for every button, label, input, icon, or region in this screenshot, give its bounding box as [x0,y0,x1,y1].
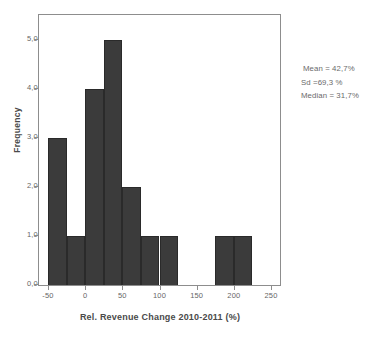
stat-mean: Mean = 42,7% [301,62,383,76]
plot-area [39,15,280,285]
x-axis-tick-mark [160,286,161,290]
stat-median: Median = 31,7% [301,89,383,103]
x-axis-tick-label: 150 [182,291,212,300]
x-axis-tick-label: 200 [219,291,249,300]
stat-sd: Sd =69,3 % [301,76,383,90]
x-axis-tick-mark [122,286,123,290]
x-axis-tick-mark [85,286,86,290]
x-axis-tick-mark [48,286,49,290]
y-axis-tick-labels: 0,01,02,03,04,05,0 [0,14,38,287]
histogram-figure: Frequency 0,01,02,03,04,05,0 -5005010015… [0,0,385,338]
histogram-bar [104,40,123,285]
x-axis-tick-label: -50 [33,291,63,300]
x-axis-tick-label: 0 [70,291,100,300]
histogram-bar [85,89,104,285]
x-axis-tick-mark [197,286,198,290]
histogram-bar [160,236,179,285]
x-axis-tick-label: 250 [256,291,286,300]
x-axis-tick-label: 50 [107,291,137,300]
histogram-bar [234,236,253,285]
x-axis-label: Rel. Revenue Change 2010-2011 (%) [38,312,282,322]
x-axis-tick-mark [234,286,235,290]
histogram-bar [122,187,141,285]
histogram-bar [67,236,86,285]
x-axis-ticks: -50050100150200250 [39,286,281,302]
statistics-annotation: Mean = 42,7% Sd =69,3 % Median = 31,7% [301,62,383,103]
x-axis-tick-label: 100 [145,291,175,300]
x-axis-tick-mark [271,286,272,290]
histogram-bar [48,138,67,285]
histogram-bar [141,236,160,285]
histogram-bar [215,236,234,285]
